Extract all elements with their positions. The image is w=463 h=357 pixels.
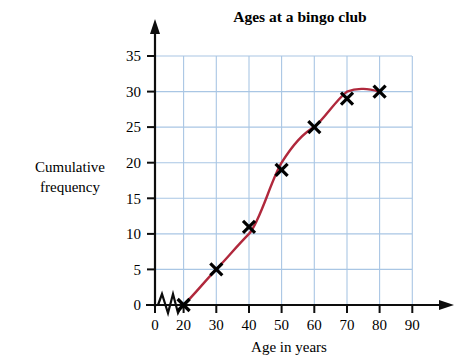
x-tick-label-40: 40: [242, 317, 257, 333]
x-tick-label-90: 90: [405, 317, 420, 333]
y-tick-label-35: 35: [126, 48, 141, 64]
y-axis-title-line2: frequency: [40, 179, 100, 195]
y-tick-label-15: 15: [126, 191, 141, 207]
x-axis-title: Age in years: [251, 339, 327, 355]
x-tick-label-30: 30: [209, 317, 224, 333]
x-tick-label-50: 50: [274, 317, 289, 333]
chart-title: Ages at a bingo club: [233, 8, 367, 25]
x-tick-label-60: 60: [307, 317, 322, 333]
y-axis-title-line1: Cumulative: [35, 159, 105, 175]
y-tick-label-20: 20: [126, 155, 141, 171]
x-tick-label-80: 80: [372, 317, 387, 333]
x-tick-label-70: 70: [340, 317, 355, 333]
cumulative-frequency-chart: Ages at a bingo club: [0, 0, 463, 357]
x-tick-label-0: 0: [151, 317, 159, 333]
x-tick-label-20: 20: [176, 317, 191, 333]
y-tick-label-25: 25: [126, 119, 141, 135]
y-tick-label-0: 0: [134, 297, 142, 313]
y-tick-label-30: 30: [126, 84, 141, 100]
y-tick-label-10: 10: [126, 226, 141, 242]
chart-canvas: Ages at a bingo club: [0, 0, 463, 357]
y-tick-label-5: 5: [134, 262, 142, 278]
